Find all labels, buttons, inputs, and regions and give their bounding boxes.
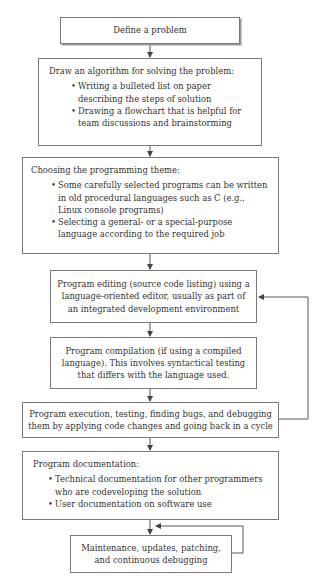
bullet-item: Selecting a general- or a special-purpos… xyxy=(51,216,270,241)
step-program-documentation: Program documentation: Technical documen… xyxy=(22,451,279,520)
bullet-item: Some carefully selected programs can be … xyxy=(51,179,270,216)
step-draw-algorithm: Draw an algorithm for solving the proble… xyxy=(38,58,262,146)
step-title: Program editing (source code listing) us… xyxy=(57,278,250,315)
bullet-list: Writing a bulleted list on paper describ… xyxy=(49,80,253,129)
step-program-compilation: Program compilation (if using a compiled… xyxy=(50,337,257,389)
bullet-item: User documentation on software use xyxy=(48,498,272,510)
step-title: Define a problem xyxy=(61,24,239,36)
step-program-editing: Program editing (source code listing) us… xyxy=(50,270,257,323)
step-define-problem: Define a problem xyxy=(60,17,240,44)
bullet-item: Technical documentation for other progra… xyxy=(48,473,272,498)
bullet-item: Drawing a flowchart that is helpful for … xyxy=(71,105,253,130)
step-maintenance: Maintenance, updates, patching, and cont… xyxy=(70,535,232,573)
step-title: Maintenance, updates, patching, and cont… xyxy=(77,542,225,567)
bullet-list: Some carefully selected programs can be … xyxy=(31,179,270,240)
bullet-list: Technical documentation for other progra… xyxy=(33,473,272,510)
step-title: Program compilation (if using a compiled… xyxy=(59,345,248,382)
feedback-loop-execution-to-editing xyxy=(259,297,308,419)
bullet-item: Writing a bulleted list on paper describ… xyxy=(71,80,253,105)
step-title: Choosing the programming theme: xyxy=(31,164,270,176)
step-title: Draw an algorithm for solving the proble… xyxy=(49,65,253,77)
step-title: Program documentation: xyxy=(33,458,272,470)
step-program-execution: Program execution, testing, finding bugs… xyxy=(22,402,279,438)
step-choose-theme: Choosing the programming theme: Some car… xyxy=(22,157,279,254)
step-title: Program execution, testing, finding bugs… xyxy=(27,408,274,433)
